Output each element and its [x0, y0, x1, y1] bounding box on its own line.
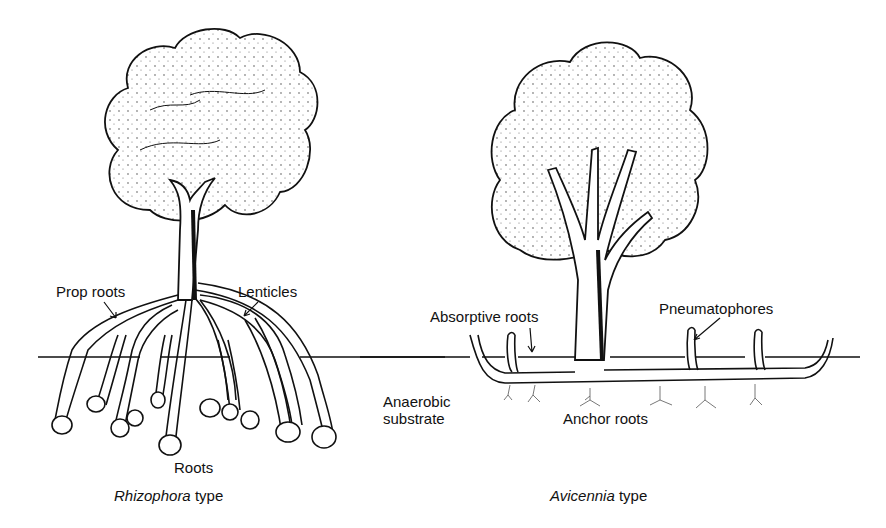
caption-rhizophora-suffix: type	[191, 487, 224, 504]
diagram-drawing	[0, 0, 886, 528]
label-lenticles: Lenticles	[238, 283, 297, 300]
rhizophora-prop-roots	[55, 283, 334, 445]
avicennia-pointer-arrows	[528, 318, 720, 352]
rhizophora-canopy	[105, 29, 318, 221]
caption-rhizophora: Rhizophora type	[114, 487, 223, 504]
caption-avicennia-genus: Avicennia	[550, 487, 615, 504]
label-pneumatophores: Pneumatophores	[659, 300, 773, 317]
avicennia-anchor-roots	[504, 384, 762, 408]
rhizophora-root-tips	[52, 392, 336, 455]
avicennia-canopy	[492, 42, 708, 259]
mangrove-root-diagram: Prop roots Lenticles Roots Absorptive ro…	[0, 0, 886, 528]
caption-rhizophora-genus: Rhizophora	[114, 487, 191, 504]
caption-avicennia-suffix: type	[615, 487, 648, 504]
avicennia-cable-root	[470, 328, 833, 384]
label-anaerobic-substrate-line1: Anaerobic	[383, 393, 451, 410]
label-absorptive-roots: Absorptive roots	[430, 308, 538, 325]
label-anchor-roots: Anchor roots	[563, 410, 648, 427]
label-prop-roots: Prop roots	[56, 283, 125, 300]
label-roots: Roots	[174, 459, 213, 476]
rhizophora-pointer-arrows	[104, 302, 258, 318]
caption-avicennia: Avicennia type	[550, 487, 647, 504]
label-anaerobic-substrate-line2: substrate	[383, 410, 445, 427]
